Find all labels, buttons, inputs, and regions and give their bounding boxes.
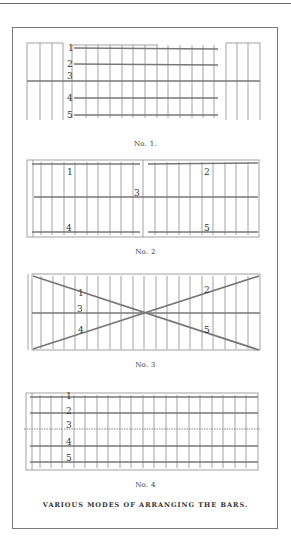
figure-no-4-diagram: 1 2 3 4 5 — [0, 0, 291, 555]
figure-no-4-bar-label-3: 3 — [66, 420, 72, 430]
figure-no-4-bar-label-4: 4 — [66, 437, 72, 447]
main-caption: VARIOUS MODES OF ARRANGING THE BARS. — [0, 501, 291, 509]
figure-no-4-bar-label-5: 5 — [66, 453, 72, 463]
figure-no-4-bar-label-2: 2 — [66, 406, 72, 416]
figure-no-4-bar-label-1: 1 — [66, 391, 72, 401]
figure-no-4-caption: No. 4 — [0, 481, 291, 489]
